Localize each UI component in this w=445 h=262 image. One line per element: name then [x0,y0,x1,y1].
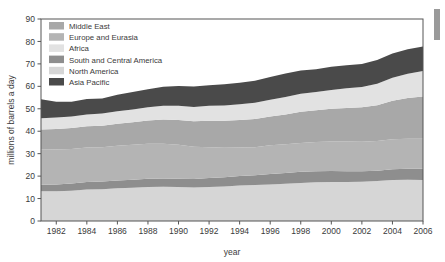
legend-swatch [49,78,64,86]
x-tick-label: 1984 [77,226,96,236]
y-tick-label: 50 [26,104,36,114]
y-tick-label: 40 [26,126,36,136]
y-tick-label: 90 [26,14,36,24]
y-tick-label: 60 [26,81,36,91]
x-tick-label: 1982 [47,226,66,236]
legend-label: Middle East [69,22,111,31]
page-edge-artifact [434,9,440,40]
x-tick-label: 1994 [230,226,249,236]
x-tick-label: 1986 [108,226,127,236]
legend-swatch [49,33,64,41]
legend-label: Europe and Eurasia [69,33,139,42]
y-axis-title: millions of barrels a day [6,75,16,165]
legend-label: Asia Pacific [69,78,109,87]
x-tick-label: 1996 [261,226,280,236]
legend-swatch [49,56,64,64]
y-tick-label: 10 [26,194,36,204]
y-tick-label: 70 [26,59,36,69]
legend-swatch [49,67,64,75]
legend-label: North America [69,67,119,76]
chart-figure: 0102030405060708090 19821984198619881990… [0,0,445,262]
x-axis: 1982198419861988199019921994199619982000… [47,221,433,236]
y-tick-label: 0 [30,216,35,226]
legend-swatch [49,22,64,30]
x-axis-title: year [224,247,241,257]
x-tick-label: 1998 [291,226,310,236]
y-tick-label: 80 [26,37,36,47]
x-tick-label: 1990 [169,226,188,236]
x-tick-label: 2002 [352,226,371,236]
legend-swatch [49,44,64,52]
x-tick-label: 2000 [322,226,341,236]
legend-label: Africa [69,44,90,53]
y-tick-label: 20 [26,171,36,181]
x-tick-label: 2006 [414,226,433,236]
x-tick-label: 1992 [200,226,219,236]
stacked-area-chart: 0102030405060708090 19821984198619881990… [0,0,445,262]
x-tick-label: 1988 [138,226,157,236]
y-axis: 0102030405060708090 [26,14,41,226]
y-tick-label: 30 [26,149,36,159]
legend-label: South and Central America [69,56,163,65]
x-tick-label: 2004 [383,226,402,236]
